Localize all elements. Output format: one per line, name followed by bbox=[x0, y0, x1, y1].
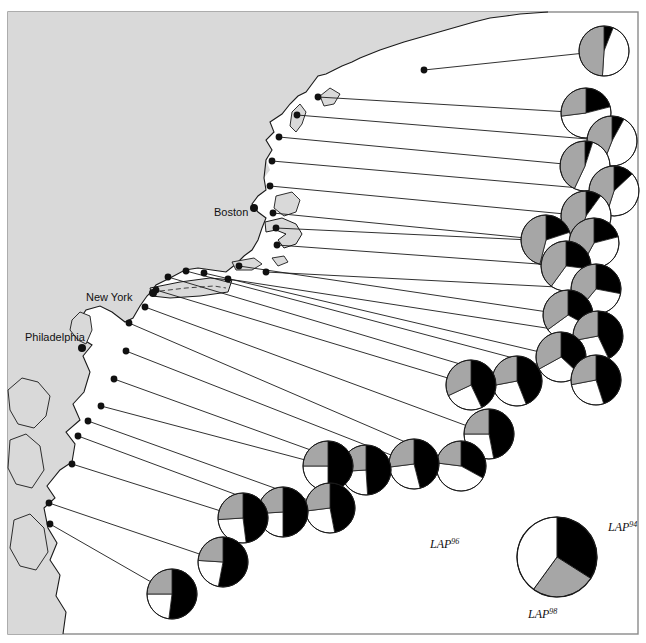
sampling-site-dot[interactable] bbox=[142, 304, 149, 311]
site-pie-chart[interactable] bbox=[147, 569, 197, 619]
sampling-site-dot[interactable] bbox=[201, 270, 208, 277]
city-label-philadelphia: Philadelphia bbox=[25, 331, 86, 343]
legend-label-base: LAP bbox=[429, 537, 452, 551]
city-dot-new-york[interactable] bbox=[149, 289, 157, 297]
sampling-site-dot[interactable] bbox=[236, 263, 243, 270]
site-pie-chart[interactable] bbox=[446, 360, 496, 410]
city-label-boston: Boston bbox=[214, 206, 248, 218]
sampling-site-dot[interactable] bbox=[165, 274, 172, 281]
legend-label-superscript: 98 bbox=[549, 607, 557, 616]
figure-root: BostonNew YorkPhiladelphia LAP94LAP96LAP… bbox=[0, 0, 646, 643]
site-pie-chart[interactable] bbox=[305, 483, 355, 533]
sampling-site-dot[interactable] bbox=[98, 403, 105, 410]
sampling-site-dot[interactable] bbox=[69, 461, 76, 468]
sampling-site-dot[interactable] bbox=[270, 210, 277, 217]
sampling-site-dot[interactable] bbox=[47, 521, 54, 528]
sampling-site-dot[interactable] bbox=[126, 320, 133, 327]
legend-label-superscript: 96 bbox=[451, 537, 459, 546]
legend-label-base: LAP bbox=[607, 520, 630, 534]
city-label-new-york: New York bbox=[86, 291, 133, 303]
sampling-site-dot[interactable] bbox=[273, 225, 280, 232]
sampling-site-dot[interactable] bbox=[123, 348, 130, 355]
sampling-site-dot[interactable] bbox=[276, 134, 283, 141]
sampling-site-dot[interactable] bbox=[421, 67, 428, 74]
sampling-site-dot[interactable] bbox=[75, 433, 82, 440]
sampling-site-dot[interactable] bbox=[269, 158, 276, 165]
legend-label-base: LAP bbox=[527, 607, 550, 621]
sampling-site-dot[interactable] bbox=[274, 242, 281, 249]
city-dot-philadelphia[interactable] bbox=[78, 344, 86, 352]
site-pie-chart[interactable] bbox=[389, 439, 439, 489]
city-dot-boston[interactable] bbox=[250, 204, 258, 212]
sampling-site-dot[interactable] bbox=[85, 418, 92, 425]
sampling-site-dot[interactable] bbox=[294, 112, 301, 119]
sampling-site-dot[interactable] bbox=[46, 500, 53, 507]
map-canvas: BostonNew YorkPhiladelphia LAP94LAP96LAP… bbox=[0, 0, 646, 643]
sampling-site-dot[interactable] bbox=[225, 276, 232, 283]
site-pie-chart[interactable] bbox=[492, 356, 542, 406]
site-pie-chart[interactable] bbox=[579, 26, 629, 76]
sampling-site-dot[interactable] bbox=[263, 269, 270, 276]
sampling-site-dot[interactable] bbox=[111, 376, 118, 383]
site-pie-chart[interactable] bbox=[218, 493, 268, 543]
site-pie-chart[interactable] bbox=[198, 537, 248, 587]
sampling-site-dot[interactable] bbox=[267, 183, 274, 190]
site-pie-chart[interactable] bbox=[436, 441, 486, 491]
site-pie-chart[interactable] bbox=[571, 355, 621, 405]
legend-label-superscript: 94 bbox=[629, 520, 637, 529]
sampling-site-dot[interactable] bbox=[183, 268, 190, 275]
sampling-site-dot[interactable] bbox=[315, 94, 322, 101]
